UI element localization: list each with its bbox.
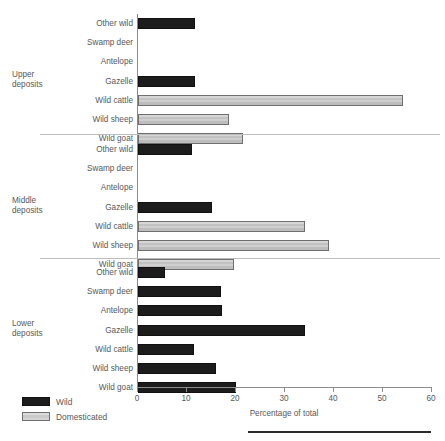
legend-label-wild: Wild: [56, 396, 72, 408]
category-label: Gazelle: [60, 72, 133, 91]
bar-wild: [138, 144, 192, 155]
x-axis-title: Percentage of total: [137, 409, 431, 418]
x-tick-label: 10: [171, 394, 201, 403]
bar-wild: [138, 325, 305, 336]
category-label: Other wild: [60, 140, 133, 159]
legend: Wild Domesticated: [22, 396, 142, 426]
category-label: Wild sheep: [60, 359, 133, 378]
bar-domesticated: [138, 240, 329, 251]
category-label: Other wild: [60, 263, 133, 282]
x-tick-label: 40: [318, 394, 348, 403]
legend-item-domesticated: Domesticated: [22, 411, 142, 424]
bar-wild: [138, 202, 212, 213]
legend-swatch-wild: [22, 397, 50, 406]
x-tick: [137, 387, 138, 392]
bar-row: Swamp deer: [0, 282, 445, 301]
x-tick: [284, 387, 285, 392]
group-separator-1: [40, 134, 440, 135]
bar-wild: [138, 286, 221, 297]
bar-row: Wild cattle: [0, 217, 445, 236]
bar-row: Other wild: [0, 140, 445, 159]
x-tick-label: 20: [220, 394, 250, 403]
legend-item-wild: Wild: [22, 396, 142, 409]
group-separator-2: [40, 258, 440, 259]
category-label: Gazelle: [60, 321, 133, 340]
bar-row: Wild cattle: [0, 91, 445, 110]
x-tick-label: 50: [367, 394, 397, 403]
category-label: Antelope: [60, 52, 133, 71]
bar-row: Gazelle: [0, 321, 445, 340]
bar-row: Gazelle: [0, 198, 445, 217]
bottom-rule: [248, 431, 431, 433]
bar-row: Wild cattle: [0, 340, 445, 359]
bar-row: Gazelle: [0, 72, 445, 91]
bar-row: Wild sheep: [0, 236, 445, 255]
x-tick: [235, 387, 236, 392]
bar-row: Antelope: [0, 301, 445, 320]
category-label: Wild cattle: [60, 91, 133, 110]
x-tick: [431, 387, 432, 392]
category-label: Antelope: [60, 178, 133, 197]
bar-wild: [138, 267, 165, 278]
bar-wild: [138, 363, 216, 374]
bar-domesticated: [138, 221, 305, 232]
bar-wild: [138, 76, 195, 87]
x-tick-label: 60: [416, 394, 445, 403]
bar-chart-figure: Upper depositsOther wildSwamp deerAntelo…: [0, 0, 445, 441]
category-label: Wild cattle: [60, 217, 133, 236]
bar-row: Swamp deer: [0, 159, 445, 178]
bar-row: Antelope: [0, 178, 445, 197]
category-label: Wild cattle: [60, 340, 133, 359]
x-tick: [382, 387, 383, 392]
legend-swatch-domesticated: [22, 412, 50, 421]
category-label: Swamp deer: [60, 159, 133, 178]
bar-wild: [138, 344, 194, 355]
category-label: Swamp deer: [60, 33, 133, 52]
bar-wild: [138, 18, 195, 29]
bar-row: Swamp deer: [0, 33, 445, 52]
bar-row: Wild sheep: [0, 110, 445, 129]
bar-row: Wild sheep: [0, 359, 445, 378]
category-label: Swamp deer: [60, 282, 133, 301]
x-tick-label: 30: [269, 394, 299, 403]
bar-row: Antelope: [0, 52, 445, 71]
category-label: Wild sheep: [60, 236, 133, 255]
category-label: Wild sheep: [60, 110, 133, 129]
bar-wild: [138, 305, 222, 316]
bar-domesticated: [138, 95, 403, 106]
category-label: Other wild: [60, 14, 133, 33]
legend-label-domesticated: Domesticated: [56, 411, 107, 423]
bar-row: Other wild: [0, 14, 445, 33]
category-label: Antelope: [60, 301, 133, 320]
category-label: Gazelle: [60, 198, 133, 217]
x-tick: [333, 387, 334, 392]
bar-row: Other wild: [0, 263, 445, 282]
bar-domesticated: [138, 114, 229, 125]
x-tick: [186, 387, 187, 392]
